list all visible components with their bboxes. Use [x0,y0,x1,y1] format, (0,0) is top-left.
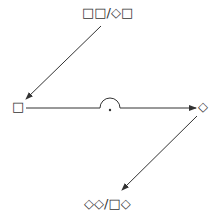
diagram-canvas [0,0,219,220]
top-label: □□/◇□ [82,6,133,19]
left-node: □ [12,100,24,113]
arrow-top-to-left [26,26,101,99]
arrow-right-to-bottom [122,116,197,190]
bottom-label: ◇◇/□◇ [84,197,131,210]
semicircle-dot-icon [109,109,111,111]
arrow-left-to-right [26,98,196,108]
right-node: ◇ [198,100,208,113]
